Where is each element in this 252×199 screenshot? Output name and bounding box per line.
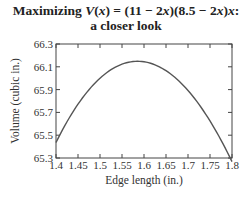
y-tick-label: 65.3 xyxy=(34,152,54,164)
y-tick-label: 65.9 xyxy=(34,84,54,96)
x-tick-label: 1.7 xyxy=(181,159,195,171)
x-tick-label: 1.75 xyxy=(200,159,220,171)
volume-line-chart: 1.41.451.51.551.61.651.71.751.865.365.56… xyxy=(0,0,252,199)
x-axis-label: Edge length (in.) xyxy=(105,174,183,187)
y-tick-label: 66.3 xyxy=(34,38,54,50)
x-tick-label: 1.65 xyxy=(156,159,176,171)
x-tick-label: 1.5 xyxy=(93,159,107,171)
x-tick-label: 1.45 xyxy=(68,159,88,171)
x-tick-label: 1.6 xyxy=(137,159,151,171)
y-tick-label: 65.7 xyxy=(34,106,54,118)
x-tick-label: 1.55 xyxy=(112,159,132,171)
y-tick-label: 66.1 xyxy=(34,61,53,73)
y-axis-label: Volume (cubic in.) xyxy=(9,58,22,144)
volume-curve xyxy=(56,61,232,161)
y-tick-label: 65.5 xyxy=(34,129,54,141)
